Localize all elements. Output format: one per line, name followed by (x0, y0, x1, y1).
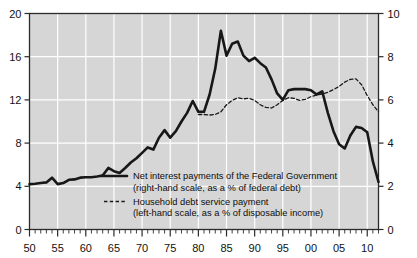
xtick-label: 10 (361, 242, 373, 254)
ytick-label-left: 0 (15, 224, 21, 236)
legend-label-net-interest-line1: Net interest payments of the Federal Gov… (133, 171, 338, 181)
ytick-label-left: 4 (15, 180, 21, 192)
ytick-label-right: 10 (388, 8, 400, 20)
ytick-label-left: 12 (9, 94, 21, 106)
xtick-label: 00 (305, 242, 317, 254)
ytick-label-left: 8 (15, 137, 21, 149)
figure-container: 0481216200246810505560657075808590950005… (0, 0, 417, 258)
xtick-label: 80 (192, 242, 204, 254)
legend-label-net-interest-line2: (right-hand scale, as a % of federal deb… (133, 183, 301, 193)
ytick-label-right: 8 (388, 51, 394, 63)
xtick-label: 95 (277, 242, 289, 254)
xtick-label: 60 (80, 242, 92, 254)
xtick-label: 70 (136, 242, 148, 254)
xtick-label: 90 (249, 242, 261, 254)
ytick-label-right: 4 (388, 137, 394, 149)
legend-label-household-debt-line1: Household debt service payment (133, 197, 269, 207)
ytick-label-right: 0 (388, 224, 394, 236)
xtick-label: 65 (108, 242, 120, 254)
chart-canvas: 0481216200246810505560657075808590950005… (0, 0, 417, 258)
ytick-label-right: 6 (388, 94, 394, 106)
legend-label-household-debt-line2: (left-hand scale, as a % of disposable i… (133, 208, 323, 218)
xtick-label: 50 (23, 242, 35, 254)
xtick-label: 55 (52, 242, 64, 254)
ytick-label-right: 2 (388, 180, 394, 192)
xtick-label: 05 (333, 242, 345, 254)
xtick-label: 75 (164, 242, 176, 254)
xtick-label: 85 (220, 242, 232, 254)
ytick-label-left: 20 (9, 8, 21, 20)
ytick-label-left: 16 (9, 51, 21, 63)
line-chart: 0481216200246810505560657075808590950005… (0, 0, 417, 258)
